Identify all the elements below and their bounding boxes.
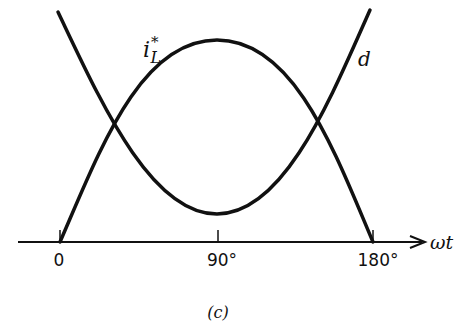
label-il-star: i*L: [143, 33, 161, 67]
tick-label-180: 180°: [358, 250, 399, 270]
figure-caption: (c): [207, 303, 228, 322]
curve-il-star: [60, 40, 373, 242]
waveform-diagram: i*L d 0 90° 180° ωt (c): [0, 0, 466, 334]
label-d: d: [358, 47, 371, 71]
axis-label-omega-t: ωt: [430, 231, 453, 253]
tick-label-90: 90°: [207, 250, 237, 270]
tick-label-0: 0: [54, 250, 65, 270]
